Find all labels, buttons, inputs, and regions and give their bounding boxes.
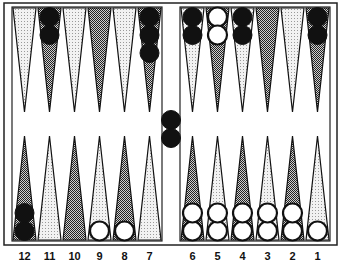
checker-black[interactable] xyxy=(183,26,202,45)
checker-black[interactable] xyxy=(15,222,34,241)
checker-white[interactable] xyxy=(258,222,277,241)
left-half xyxy=(12,7,162,241)
checker-white[interactable] xyxy=(233,204,252,223)
bar-checker-black[interactable] xyxy=(162,111,181,130)
checker-white[interactable] xyxy=(208,204,227,223)
point-label-12: 12 xyxy=(13,250,37,262)
point-label-1: 1 xyxy=(306,250,330,262)
point-label-3: 3 xyxy=(256,250,280,262)
checker-black[interactable] xyxy=(308,8,327,27)
checker-white[interactable] xyxy=(283,222,302,241)
checker-white[interactable] xyxy=(208,8,227,27)
checker-black[interactable] xyxy=(40,8,59,27)
checker-white[interactable] xyxy=(183,222,202,241)
checker-black[interactable] xyxy=(140,8,159,27)
checker-white[interactable] xyxy=(233,222,252,241)
checker-black[interactable] xyxy=(15,204,34,223)
checker-white[interactable] xyxy=(115,222,134,241)
backgammon-board xyxy=(0,0,341,266)
point-label-8: 8 xyxy=(113,250,137,262)
point-label-2: 2 xyxy=(281,250,305,262)
checker-black[interactable] xyxy=(233,26,252,45)
checker-black[interactable] xyxy=(140,44,159,63)
point-label-9: 9 xyxy=(88,250,112,262)
bar-checker-black[interactable] xyxy=(162,129,181,148)
checker-white[interactable] xyxy=(208,26,227,45)
checker-black[interactable] xyxy=(233,8,252,27)
checker-black[interactable] xyxy=(183,8,202,27)
checker-white[interactable] xyxy=(183,204,202,223)
checker-white[interactable] xyxy=(208,222,227,241)
point-label-11: 11 xyxy=(38,250,62,262)
point-label-7: 7 xyxy=(138,250,162,262)
checker-black[interactable] xyxy=(140,26,159,45)
checker-white[interactable] xyxy=(90,222,109,241)
checker-black[interactable] xyxy=(308,26,327,45)
point-label-5: 5 xyxy=(206,250,230,262)
right-half xyxy=(180,7,330,241)
point-label-4: 4 xyxy=(231,250,255,262)
point-label-6: 6 xyxy=(181,250,205,262)
point-label-10: 10 xyxy=(63,250,87,262)
checker-white[interactable] xyxy=(258,204,277,223)
checker-black[interactable] xyxy=(40,26,59,45)
checker-white[interactable] xyxy=(308,222,327,241)
checker-white[interactable] xyxy=(283,204,302,223)
